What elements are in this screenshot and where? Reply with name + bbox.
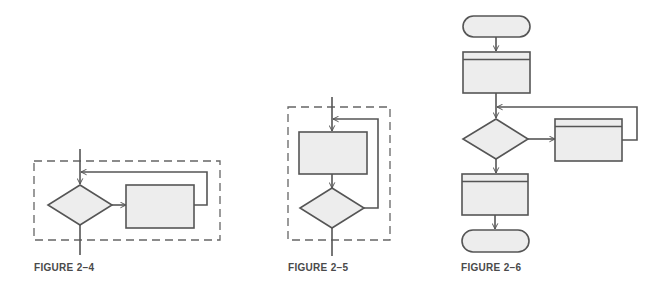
- predefined-process-3-shape: [462, 174, 528, 215]
- process-rectangle-shape: [299, 132, 367, 174]
- figure-2-4-caption: FIGURE 2–4: [34, 262, 94, 273]
- figure-2-6-caption: FIGURE 2–6: [461, 262, 521, 273]
- figure-2-4: [34, 149, 220, 255]
- figure-2-5-caption: FIGURE 2–5: [288, 262, 348, 273]
- figure-2-5: [288, 97, 390, 256]
- figure-2-6: [462, 16, 637, 252]
- predefined-process-1-shape: [463, 52, 530, 93]
- flowchart-canvas: [0, 0, 667, 289]
- start-terminal-shape: [463, 16, 530, 37]
- end-terminal-shape: [462, 230, 529, 252]
- predefined-process-loop-body-shape: [555, 119, 622, 161]
- process-rectangle-shape: [126, 185, 194, 228]
- decision-diamond-shape: [48, 185, 112, 225]
- decision-diamond-shape: [300, 188, 364, 228]
- decision-diamond-shape: [463, 119, 528, 159]
